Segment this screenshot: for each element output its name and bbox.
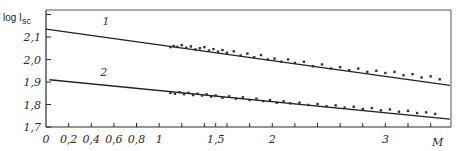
- series-1-point: [280, 61, 282, 63]
- series-2-point: [187, 92, 189, 94]
- x-tick-label: 0: [43, 133, 50, 146]
- series-2-point: [398, 111, 400, 113]
- series-2-point: [242, 96, 244, 98]
- series-2-point: [371, 107, 373, 109]
- series-2-point: [434, 113, 436, 115]
- series-2-point: [307, 104, 309, 106]
- series-1-point: [294, 62, 296, 64]
- series-2-point: [210, 95, 212, 97]
- series-1-point: [212, 48, 214, 50]
- series-2-point: [425, 111, 427, 113]
- series-2-point: [228, 95, 230, 97]
- series-1-point: [239, 54, 241, 56]
- series-1-point: [217, 50, 219, 52]
- series-1-point: [233, 50, 235, 52]
- series-2-point: [416, 112, 418, 114]
- series-2-point: [201, 94, 203, 96]
- series-2-point: [325, 105, 327, 107]
- series-2-point: [282, 100, 284, 102]
- y-axis-label: log Isc: [3, 12, 31, 26]
- series-1-label: 1: [103, 15, 110, 28]
- series-1-point: [173, 45, 175, 47]
- series-1-point: [411, 73, 413, 75]
- series-2-point: [214, 94, 216, 96]
- series-1-point: [303, 61, 305, 63]
- series-2-point: [289, 102, 291, 104]
- series-2-point: [196, 93, 198, 95]
- series-2-point: [362, 108, 364, 110]
- series-1-point: [273, 57, 275, 59]
- series-1-point: [267, 58, 269, 60]
- series-1-point: [190, 45, 192, 47]
- series-1-point: [246, 52, 248, 54]
- series-1-point: [402, 74, 404, 76]
- series-1-point: [375, 70, 377, 72]
- series-2-point: [248, 99, 250, 101]
- series-1-point: [253, 56, 255, 58]
- series-1-point: [169, 46, 171, 48]
- series-2-point: [407, 110, 409, 112]
- x-tick-label: 0,2: [60, 133, 78, 146]
- x-tick-label: 2: [268, 133, 276, 146]
- y-tick-label: 1,7: [24, 121, 42, 134]
- series-2-point: [174, 93, 176, 95]
- series-2-point: [183, 93, 185, 95]
- series-1-point: [366, 71, 368, 73]
- x-axis-label: M: [431, 136, 444, 149]
- series-1-point: [226, 52, 228, 54]
- series-1-point: [176, 46, 178, 48]
- series-1-point: [287, 58, 289, 60]
- series-1-point: [438, 78, 440, 80]
- series-1-point: [260, 54, 262, 56]
- series-1-point: [330, 67, 332, 69]
- series-2-point: [276, 102, 278, 104]
- series-1-point: [199, 47, 201, 49]
- y-tick-label: 1,8: [24, 99, 42, 112]
- series-1-point: [208, 49, 210, 51]
- series-2-point: [343, 106, 345, 108]
- y-tick-label: 2,0: [23, 54, 42, 67]
- series-1-point: [420, 76, 422, 78]
- series-2-point: [353, 106, 355, 108]
- x-tick-label: 1,5: [207, 133, 225, 146]
- series-1-point: [203, 46, 205, 48]
- series-1-point: [181, 44, 183, 46]
- series-1-point: [194, 48, 196, 50]
- series-2-point: [178, 91, 180, 93]
- series-2-label: 2: [99, 66, 107, 79]
- series-2-point: [316, 103, 318, 105]
- series-1-point: [185, 47, 187, 49]
- series-2-point: [192, 94, 194, 96]
- x-tick-label: 0,4: [83, 133, 101, 146]
- series-1-point: [357, 67, 359, 69]
- x-tick-label: 1: [156, 133, 163, 146]
- chart: 00,20,40,60,811,5231,71,81,92,02,1 12 lo…: [0, 0, 463, 151]
- x-tick-label: 3: [382, 133, 389, 146]
- series-1-point: [384, 72, 386, 74]
- series-1-point: [348, 69, 350, 71]
- series-2-point: [298, 102, 300, 104]
- series-1-point: [221, 49, 223, 51]
- x-tick-label: 0,6: [105, 133, 123, 146]
- series-2-point: [334, 104, 336, 106]
- series-2-point: [255, 97, 257, 99]
- series-2-point: [235, 97, 237, 99]
- x-tick-label: 0,8: [128, 133, 146, 146]
- series-1-point: [429, 75, 431, 77]
- series-2-point: [221, 97, 223, 99]
- series-2-point: [380, 109, 382, 111]
- series-1-point: [321, 63, 323, 65]
- series-2-point: [262, 100, 264, 102]
- series-2-point: [389, 108, 391, 110]
- series-1-point: [339, 66, 341, 68]
- y-tick-label: 1,9: [24, 76, 42, 89]
- series-1-point: [393, 71, 395, 73]
- series-2-point: [269, 99, 271, 101]
- series-2-point: [169, 92, 171, 94]
- y-tick-label: 2,1: [23, 31, 42, 44]
- series-2-point: [205, 93, 207, 95]
- series-1-point: [312, 65, 314, 67]
